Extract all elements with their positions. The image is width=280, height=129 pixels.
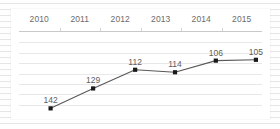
data-point-2010[interactable] bbox=[48, 106, 52, 110]
data-point-2012[interactable] bbox=[133, 68, 137, 72]
data-point-2014[interactable] bbox=[214, 59, 218, 63]
data-label-2010: 142 bbox=[43, 95, 57, 105]
category-label-2015: 2015 bbox=[222, 12, 263, 26]
category-axis: 201020112012201320142015 bbox=[11, 9, 270, 31]
data-label-2011: 129 bbox=[86, 75, 100, 85]
data-label-2014: 106 bbox=[209, 48, 223, 58]
data-point-2013[interactable] bbox=[173, 70, 177, 74]
page-background: 201020112012201320142015 142129112114106… bbox=[0, 0, 280, 129]
category-label-2010: 2010 bbox=[19, 12, 60, 26]
category-label-2014: 2014 bbox=[181, 12, 222, 26]
data-point-2011[interactable] bbox=[91, 86, 95, 90]
data-label-2015: 105 bbox=[249, 47, 263, 57]
category-label-2011: 2011 bbox=[60, 12, 101, 26]
chart-card: 201020112012201320142015 142129112114106… bbox=[11, 9, 270, 119]
data-label-2013: 114 bbox=[168, 59, 182, 69]
data-point-2015[interactable] bbox=[254, 58, 258, 62]
category-label-2012: 2012 bbox=[100, 12, 141, 26]
category-label-2013: 2013 bbox=[141, 12, 182, 26]
series-line bbox=[51, 60, 256, 109]
plot-area: 142129112114106105 bbox=[19, 32, 262, 115]
data-label-2012: 112 bbox=[128, 57, 142, 67]
